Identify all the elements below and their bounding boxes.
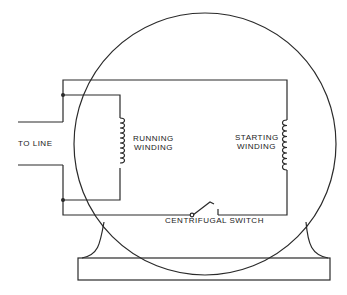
centrifugal-switch-label: CENTRIFUGAL SWITCH: [165, 216, 264, 225]
starting-winding-label-2: WINDING: [237, 142, 276, 151]
left-foot: [82, 222, 104, 258]
motor-housing: [74, 13, 336, 275]
running-winding-coil: [120, 118, 125, 163]
outer-wire-right: [218, 170, 287, 215]
starting-winding-label-1: STARTING: [235, 133, 279, 142]
motor-wiring-diagram: TO LINE RUNNING WINDING STARTING WINDING…: [0, 0, 347, 295]
running-wire-top: [63, 95, 120, 118]
junction-dot-top: [61, 93, 65, 97]
outer-wire-top: [63, 80, 287, 122]
junction-dot-bottom: [61, 198, 65, 202]
starting-winding-coil: [283, 120, 288, 170]
to-line-label: TO LINE: [18, 139, 52, 148]
motor-base: [78, 258, 330, 280]
running-winding-label-2: WINDING: [134, 143, 173, 152]
right-foot: [306, 222, 328, 258]
running-winding-label-1: RUNNING: [133, 134, 174, 143]
running-wire-bottom: [63, 168, 120, 200]
switch-blade: [193, 202, 214, 215]
